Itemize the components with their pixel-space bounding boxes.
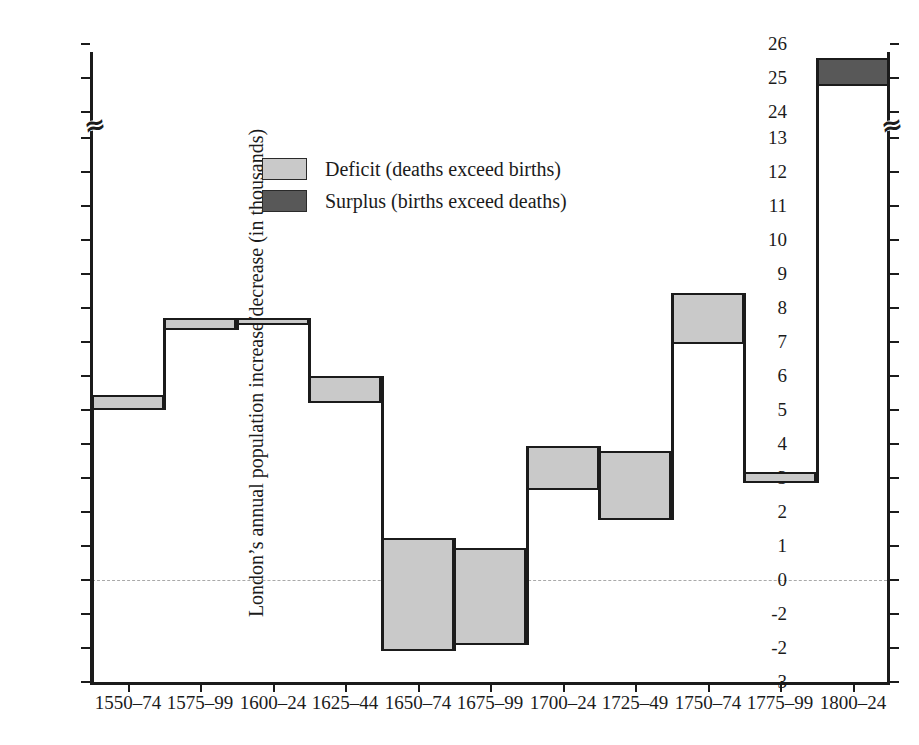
legend-label-deficit: Deficit (deaths exceed births) (325, 158, 561, 180)
y-tick-right (890, 477, 899, 479)
legend-item-surplus: Surplus (births exceed deaths) (262, 190, 567, 212)
step-connector (236, 318, 239, 330)
data-band (817, 58, 889, 87)
legend-swatch-surplus (262, 190, 307, 212)
x-tick (708, 685, 710, 692)
y-tick (81, 681, 90, 683)
y-tick-right (890, 409, 899, 411)
y-tick-right (890, 511, 899, 513)
y-tick-right (890, 443, 899, 445)
y-tick (81, 307, 90, 309)
y-tick-label: 2 (778, 502, 788, 521)
data-band (382, 538, 454, 652)
y-tick-right (890, 307, 899, 309)
y-tick-label: 9 (778, 264, 788, 283)
chart-legend: Deficit (deaths exceed births) Surplus (… (262, 158, 567, 222)
y-tick-label: 0 (778, 570, 788, 589)
y-tick-right (890, 205, 899, 207)
y-tick (81, 511, 90, 513)
x-tick (490, 685, 492, 692)
y-tick (81, 273, 90, 275)
y-tick-label: 6 (778, 366, 788, 385)
step-connector (743, 293, 746, 483)
y-tick-right (890, 375, 899, 377)
x-tick (418, 685, 420, 692)
y-tick-right (890, 43, 899, 45)
y-tick-right (890, 579, 899, 581)
x-tick-label: 1800–24 (798, 692, 908, 714)
data-band (454, 548, 526, 645)
y-tick-right (890, 613, 899, 615)
chart-figure: London’s annual population increase/decr… (0, 0, 919, 745)
data-band (527, 446, 599, 490)
y-tick-label: 11 (769, 196, 787, 215)
y-tick-label: 7 (778, 332, 788, 351)
y-axis-right-line (887, 52, 890, 685)
step-connector (671, 293, 674, 521)
y-tick-label: 1 (778, 536, 788, 555)
y-tick-label: 25 (768, 68, 787, 87)
x-tick (200, 685, 202, 692)
x-tick (563, 685, 565, 692)
plot-area: Deficit (deaths exceed births) Surplus (… (90, 30, 890, 685)
step-connector (526, 446, 529, 645)
y-tick-label: 12 (768, 162, 787, 181)
x-tick (780, 685, 782, 692)
y-tick (81, 77, 90, 79)
y-tick (81, 647, 90, 649)
x-tick (345, 685, 347, 692)
legend-label-surplus: Surplus (births exceed deaths) (325, 190, 567, 212)
y-tick-right (890, 77, 899, 79)
y-tick (81, 205, 90, 207)
y-tick-label: 13 (768, 128, 787, 147)
step-connector-start (91, 410, 94, 682)
data-band (744, 472, 816, 482)
step-connector (308, 318, 311, 403)
data-band (92, 395, 164, 410)
data-band (309, 376, 381, 403)
y-tick (81, 409, 90, 411)
step-connector (381, 376, 384, 651)
x-tick (853, 685, 855, 692)
step-connector (816, 58, 819, 483)
y-tick-right (890, 273, 899, 275)
y-tick (81, 613, 90, 615)
x-tick (273, 685, 275, 692)
y-tick-label: 4 (778, 434, 788, 453)
legend-item-deficit: Deficit (deaths exceed births) (262, 158, 567, 180)
y-tick (81, 43, 90, 45)
data-band (672, 293, 744, 344)
y-tick-right (890, 341, 899, 343)
y-tick-right (890, 545, 899, 547)
step-connector (163, 318, 166, 410)
y-tick (81, 477, 90, 479)
x-tick (635, 685, 637, 692)
axis-break-left-icon: ≈ (83, 118, 106, 132)
y-tick-label: 8 (778, 298, 788, 317)
y-tick (81, 171, 90, 173)
y-tick-label: 10 (768, 230, 787, 249)
y-tick (81, 545, 90, 547)
y-tick (81, 579, 90, 581)
data-band (237, 318, 309, 325)
y-tick-label: -2 (771, 638, 787, 657)
y-tick-right (890, 681, 899, 683)
y-tick-label: 24 (768, 102, 787, 121)
y-tick (81, 443, 90, 445)
x-tick (128, 685, 130, 692)
data-band (164, 318, 236, 330)
step-connector (453, 538, 456, 652)
y-tick-label: 5 (778, 400, 788, 419)
y-tick (81, 239, 90, 241)
step-connector (598, 446, 601, 521)
y-tick (81, 375, 90, 377)
legend-swatch-deficit (262, 158, 307, 180)
data-band (599, 451, 671, 521)
y-tick-right (890, 239, 899, 241)
y-tick-label: -2 (771, 604, 787, 623)
y-tick-right (890, 171, 899, 173)
y-tick-label: 26 (768, 34, 787, 53)
y-tick (81, 341, 90, 343)
y-tick-right (890, 647, 899, 649)
axis-break-right-icon: ≈ (880, 118, 903, 132)
